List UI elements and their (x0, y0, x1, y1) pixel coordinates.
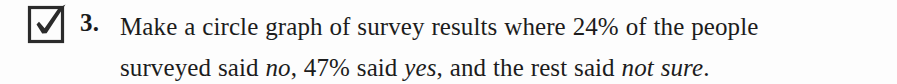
category-no-emphasis: no (265, 54, 290, 81)
item-number: 3. (80, 8, 99, 38)
line2-text-part1: surveyed said (120, 54, 265, 81)
checked-checkbox-icon[interactable] (26, 2, 70, 46)
question-line-1: Make a circle graph of survey results wh… (120, 6, 895, 47)
exercise-row: 3. Make a circle graph of survey results… (0, 0, 897, 84)
category-not-sure-emphasis: not sure (622, 54, 704, 81)
line1-text: Make a circle graph of survey results wh… (120, 13, 758, 40)
line2-text-part4: . (703, 54, 709, 81)
category-yes-emphasis: yes (404, 54, 436, 81)
line2-text-part2: , 47% said (291, 54, 405, 81)
question-text: Make a circle graph of survey results wh… (120, 6, 895, 84)
question-line-2: surveyed said no, 47% said yes, and the … (120, 47, 895, 84)
line2-text-part3: , and the rest said (437, 54, 622, 81)
